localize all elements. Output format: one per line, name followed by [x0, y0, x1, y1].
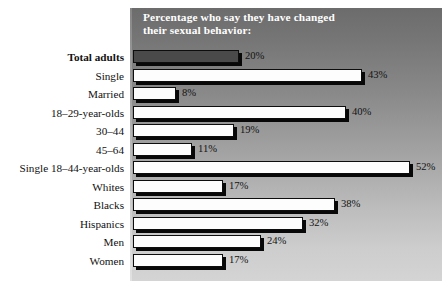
- bar-category-label: Hispanics: [0, 217, 124, 231]
- bar-value-label: 19%: [240, 123, 259, 137]
- bar-value-label: 20%: [245, 49, 264, 63]
- bar-row: Single 18–44-year-olds52%: [0, 161, 442, 179]
- bar-value-label: 38%: [341, 197, 360, 211]
- bar: [133, 143, 192, 156]
- bar: [133, 235, 261, 248]
- bar-category-label: 45–64: [0, 143, 124, 157]
- bar-value-label: 43%: [368, 68, 387, 82]
- bar-value-label: 17%: [229, 253, 248, 267]
- bar-category-label: Single 18–44-year-olds: [0, 161, 124, 175]
- bar-category-label: Women: [0, 254, 124, 268]
- bar-value-label: 11%: [198, 142, 217, 156]
- bar: [133, 50, 239, 63]
- bar-category-label: Single: [0, 69, 124, 83]
- bar-row: Men24%: [0, 235, 442, 253]
- bar-row: Single43%: [0, 69, 442, 87]
- bar-row: Hispanics32%: [0, 217, 442, 235]
- bar-value-label: 8%: [182, 86, 196, 100]
- bar-row: Whites17%: [0, 180, 442, 198]
- chart-title: Percentage who say they have changed the…: [143, 11, 428, 37]
- bar-row: Married8%: [0, 87, 442, 105]
- bar: [133, 87, 176, 100]
- bar: [133, 106, 346, 119]
- bar: [133, 198, 335, 211]
- bar-row: Women17%: [0, 254, 442, 272]
- bar-value-label: 32%: [309, 216, 328, 230]
- bar-chart-figure: Percentage who say they have changed the…: [0, 0, 442, 285]
- bar-category-label: Total adults: [0, 50, 124, 64]
- bar-row: 18–29-year-olds40%: [0, 106, 442, 124]
- bar-category-label: Whites: [0, 180, 124, 194]
- bar: [133, 161, 410, 174]
- bar-row: Blacks38%: [0, 198, 442, 216]
- bar-category-label: Men: [0, 235, 124, 249]
- bar-category-label: 18–29-year-olds: [0, 106, 124, 120]
- bar: [133, 254, 223, 267]
- bar: [133, 69, 362, 82]
- bar-row: 30–4419%: [0, 124, 442, 142]
- bar-category-label: 30–44: [0, 124, 124, 138]
- bar-row: 45–6411%: [0, 143, 442, 161]
- bar: [133, 180, 223, 193]
- bar-category-label: Married: [0, 87, 124, 101]
- bar-value-label: 24%: [267, 234, 286, 248]
- bar-value-label: 52%: [416, 160, 435, 174]
- bar: [133, 124, 234, 137]
- bar-value-label: 17%: [229, 179, 248, 193]
- bar-category-label: Blacks: [0, 198, 124, 212]
- bar-value-label: 40%: [352, 105, 371, 119]
- bar: [133, 217, 303, 230]
- bar-row: Total adults20%: [0, 50, 442, 68]
